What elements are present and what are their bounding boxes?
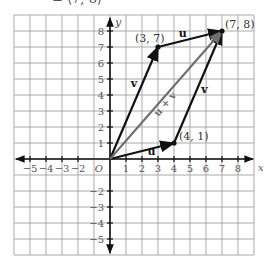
x-tick-label: −4 (39, 163, 54, 174)
y-tick-label: −2 (89, 186, 104, 197)
x-tick-label: 8 (235, 163, 241, 174)
x-tick-label: −3 (55, 163, 70, 174)
y-tick-label: 1 (98, 138, 104, 149)
vector-v-arrow (110, 47, 158, 159)
x-tick-label: −2 (71, 163, 86, 174)
origin-label: O (95, 163, 103, 174)
x-tick-label: 2 (139, 163, 145, 174)
x-tick-label: 7 (219, 163, 225, 174)
y-tick-label: −4 (89, 218, 104, 229)
vector-v-arrow (174, 31, 222, 143)
x-tick-label: 4 (171, 163, 177, 174)
vector-label: v (200, 83, 208, 96)
vector-label: u (148, 145, 156, 158)
vector-label: u + v (151, 89, 179, 119)
vector-diagram: −5−4−3−212345678−5−4−3−212345678Oxy vuuv… (0, 0, 269, 265)
x-tick-label: 5 (187, 163, 193, 174)
point-marker (171, 140, 176, 145)
x-tick-label: 3 (155, 163, 161, 174)
point-label: (4, 1) (179, 130, 209, 143)
y-tick-label: −5 (89, 234, 104, 245)
tick-labels: −5−4−3−212345678−5−4−3−212345678Oxy (23, 16, 264, 245)
vector-label: v (130, 77, 138, 90)
y-tick-label: 4 (98, 90, 104, 101)
y-tick-label: 3 (98, 106, 104, 117)
y-tick-label: −3 (89, 202, 104, 213)
point-label: (3, 7) (135, 32, 165, 45)
point-marker (219, 28, 224, 33)
grid-lines (14, 15, 254, 255)
point-label: (7, 8) (225, 18, 255, 31)
x-tick-label: 6 (203, 163, 209, 174)
y-axis-label: y (114, 16, 122, 29)
x-tick-label: −5 (23, 163, 38, 174)
y-tick-label: 2 (98, 122, 104, 133)
x-axis-label: x (258, 162, 264, 173)
point-marker (155, 44, 160, 49)
axes (16, 18, 253, 253)
y-tick-label: 7 (98, 42, 104, 53)
y-tick-label: 5 (98, 74, 104, 85)
y-tick-label: 6 (98, 58, 104, 69)
x-tick-label: 1 (123, 163, 129, 174)
vector-label: u (179, 27, 187, 40)
y-tick-label: 8 (98, 26, 104, 37)
